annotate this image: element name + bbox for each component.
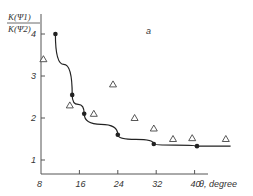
triangle-marker xyxy=(189,135,196,141)
triangle-marker xyxy=(131,115,138,121)
y-ticks: 1234 xyxy=(30,29,45,165)
axes xyxy=(41,14,208,174)
fit-curve-line xyxy=(55,34,230,146)
x-tick-label: 8 xyxy=(37,179,42,189)
y-label-numerator: K(Ψ1) xyxy=(7,12,31,22)
fit-curve xyxy=(55,34,230,146)
panel-label: a xyxy=(146,26,151,36)
x-tick-label: 32 xyxy=(152,179,162,189)
triangle-marker xyxy=(90,110,97,116)
circle-marker xyxy=(82,112,87,117)
triangle-marker xyxy=(170,136,177,142)
chart: 816243240 1234 K(Ψ1) K(Ψ2) θ, degree a xyxy=(0,0,253,196)
x-tick-label: 16 xyxy=(75,179,85,189)
y-tick-label: 1 xyxy=(31,155,36,165)
triangle-marker xyxy=(222,136,229,142)
triangle-marker xyxy=(110,81,117,87)
data-markers xyxy=(40,32,229,149)
circle-marker xyxy=(152,142,157,147)
x-ticks: 816243240 xyxy=(37,170,201,189)
circle-marker xyxy=(195,144,200,149)
circle-marker xyxy=(70,93,75,98)
x-axis-label: θ, degree xyxy=(199,179,237,189)
y-tick-label: 2 xyxy=(30,113,36,123)
circle-marker xyxy=(116,133,121,138)
y-tick-label: 3 xyxy=(31,71,36,81)
triangle-marker xyxy=(66,102,73,108)
triangle-marker xyxy=(150,125,157,131)
y-label-denominator: K(Ψ2) xyxy=(7,24,31,34)
x-tick-label: 24 xyxy=(113,179,124,189)
y-tick-label: 4 xyxy=(31,29,36,39)
circle-marker xyxy=(53,32,58,37)
